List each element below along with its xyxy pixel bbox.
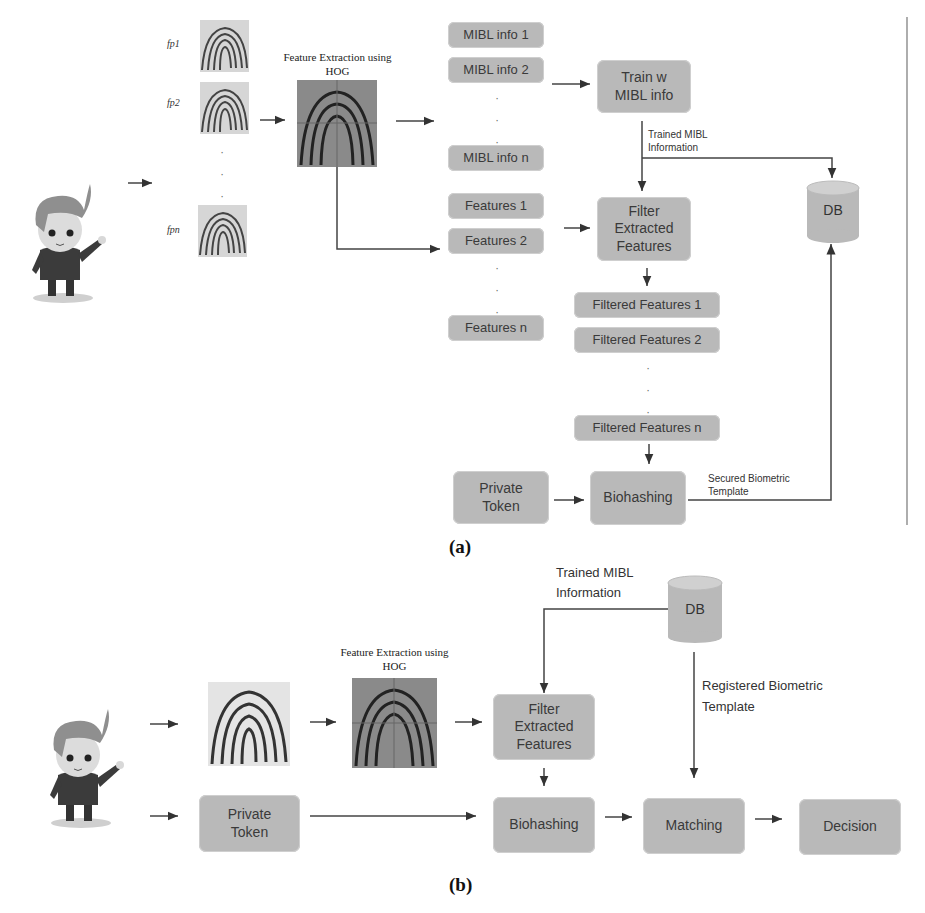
mibl-info-2-box: MIBL info 2: [448, 57, 544, 83]
features-n-box: Features n: [448, 315, 544, 341]
features-2-box: Features 2: [448, 228, 544, 254]
user-figure-icon: [18, 170, 118, 310]
fingerprint-label-2: fp2: [167, 97, 180, 108]
database-icon: DB: [667, 575, 723, 645]
db-label: DB: [806, 202, 860, 218]
filtered-features-2-box: Filtered Features 2: [574, 327, 720, 353]
connector-lines: [0, 0, 925, 913]
hog-feature-image-icon: [352, 678, 437, 768]
secured-biometric-template-label: Secured Biometric Template: [708, 472, 790, 498]
filtered-features-n-box: Filtered Features n: [574, 415, 720, 441]
panel-b-caption: (b): [449, 874, 472, 896]
fingerprint-image-icon: [198, 205, 247, 257]
train-with-mibl-box: Train w MIBL info: [597, 60, 691, 113]
panel-a-caption: (a): [449, 536, 471, 558]
hog-feature-image-icon: [297, 80, 377, 167]
decision-box: Decision: [799, 799, 901, 855]
fingerprint-image-icon: [208, 682, 290, 766]
hog-title: Feature Extraction using HOG: [270, 50, 405, 78]
fingerprint-label-1: fp1: [167, 38, 180, 49]
filter-extracted-features-box: Filter Extracted Features: [597, 197, 691, 261]
filter-extracted-features-box: Filter Extracted Features: [493, 694, 595, 760]
fingerprint-label-n: fpn: [167, 224, 180, 235]
db-label: DB: [667, 601, 723, 617]
user-figure-icon: [36, 695, 136, 835]
filtered-features-1-box: Filtered Features 1: [574, 292, 720, 318]
biohashing-box: Biohashing: [590, 471, 686, 525]
ellipsis-dots: ···: [217, 142, 227, 208]
trained-mibl-information-label: Trained MIBL Information: [648, 128, 708, 154]
fingerprint-image-icon: [200, 82, 249, 134]
features-1-box: Features 1: [448, 193, 544, 219]
mibl-info-1-box: MIBL info 1: [448, 22, 544, 48]
trained-mibl-information-label: Trained MIBL Information: [556, 563, 634, 603]
matching-box: Matching: [643, 798, 745, 854]
mibl-info-n-box: MIBL info n: [448, 145, 544, 171]
private-token-box: Private Token: [453, 471, 549, 524]
hog-title: Feature Extraction using HOG: [322, 645, 467, 673]
database-icon: DB: [806, 180, 860, 244]
registered-biometric-template-label: Registered Biometric Template: [702, 675, 823, 717]
private-token-box: Private Token: [199, 795, 300, 852]
fingerprint-image-icon: [200, 20, 249, 72]
biohashing-box: Biohashing: [493, 797, 595, 853]
